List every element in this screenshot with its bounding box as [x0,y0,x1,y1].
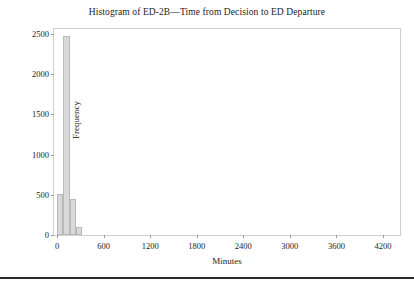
x-axis-tick-label: 1200 [142,241,159,251]
y-axis-tick-label: 0 [9,230,54,240]
x-axis-tick-label: 0 [55,241,59,251]
histogram-figure: Histogram of ED-2B—Time from Decision to… [0,0,414,286]
x-axis-tick-mark [57,235,58,238]
y-axis-tick-label: 1500 [9,109,54,119]
x-axis-tick-label: 3600 [328,241,345,251]
y-axis-tick-mark [51,195,54,196]
x-axis-tick-label: 4200 [374,241,391,251]
x-axis-tick-label: 1800 [188,241,205,251]
histogram-bar [76,227,82,235]
x-axis-label: Minutes [53,256,401,266]
plot-area [54,29,400,235]
y-axis-tick-mark [51,34,54,35]
x-axis-tick-mark [290,235,291,238]
y-axis-tick-label: 500 [9,190,54,200]
y-axis-label: Frequency [71,60,81,180]
x-axis-tick-mark [336,235,337,238]
y-axis-tick-label: 2500 [9,29,54,39]
y-axis-tick-mark [51,114,54,115]
x-axis-tick-mark [197,235,198,238]
page-bottom-rule [0,277,414,279]
x-axis-tick-mark [243,235,244,238]
chart-title: Histogram of ED-2B—Time from Decision to… [0,7,414,17]
x-axis-tick-mark [150,235,151,238]
y-axis-tick-mark [51,74,54,75]
x-axis-tick-mark [383,235,384,238]
y-axis-tick-label: 2000 [9,69,54,79]
y-axis-tick-mark [51,155,54,156]
y-axis-tick-mark [51,235,54,236]
x-axis-tick-label: 2400 [235,241,252,251]
y-axis-tick-label: 1000 [9,150,54,160]
x-axis-tick-label: 3000 [281,241,298,251]
plot-frame: Frequency 050010001500200025000600120018… [53,28,401,236]
x-axis-tick-label: 600 [97,241,110,251]
x-axis-tick-mark [104,235,105,238]
